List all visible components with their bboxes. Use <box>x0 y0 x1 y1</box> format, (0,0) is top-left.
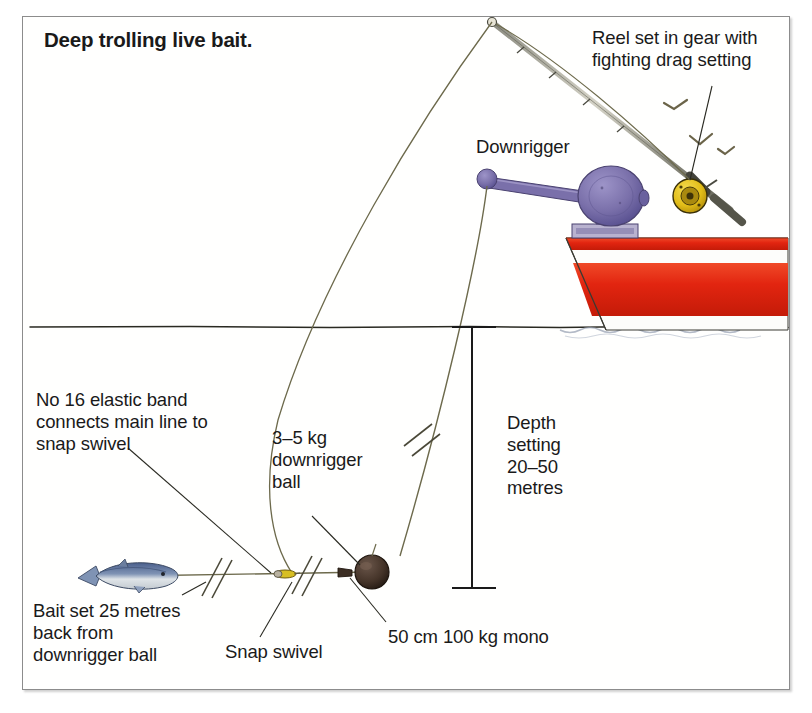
diagram-frame <box>22 16 790 690</box>
annotation-downrigger: Downrigger <box>476 136 570 158</box>
annotation-mono-leader: 50 cm 100 kg mono <box>388 626 549 648</box>
annotation-reel-drag: Reel set in gear with fighting drag sett… <box>592 27 758 71</box>
annotation-downrigger-ball: 3–5 kg downrigger ball <box>272 427 363 492</box>
figure-root: Deep trolling live bait. Reel set in gea… <box>0 0 812 713</box>
diagram-title: Deep trolling live bait. <box>44 28 252 52</box>
annotation-snap-swivel: Snap swivel <box>225 641 323 663</box>
annotation-depth-setting: Depth setting 20–50 metres <box>507 412 563 499</box>
annotation-bait-setback: Bait set 25 metres back from downrigger … <box>33 600 180 665</box>
annotation-elastic-band: No 16 elastic band connects main line to… <box>36 389 208 454</box>
